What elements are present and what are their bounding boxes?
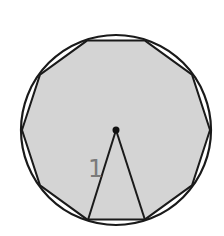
- radius-label: 1: [88, 155, 103, 183]
- center-point: [113, 127, 120, 134]
- inscribed-decagon-diagram: 1: [0, 0, 224, 236]
